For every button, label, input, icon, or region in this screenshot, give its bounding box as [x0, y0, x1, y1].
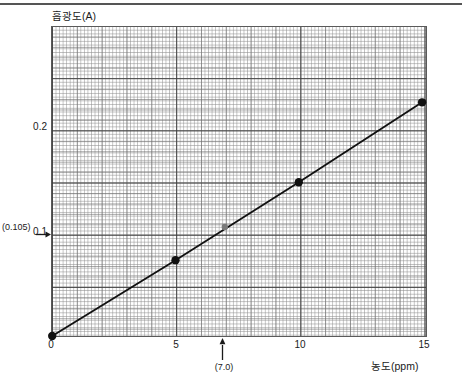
x-axis-title: 농도(ppm) [371, 358, 418, 373]
data-point-marker [295, 178, 303, 186]
data-line-and-markers [52, 27, 426, 336]
arrow-up-icon [218, 338, 227, 360]
interpolated-concentration-label: (7.0) [206, 362, 242, 372]
x-tick-label-0: 0 [36, 339, 66, 350]
y-tick-label-0.2: 0.2 [14, 121, 47, 132]
x-tick-label-5: 5 [161, 339, 191, 350]
data-point-marker [418, 98, 426, 106]
x-tick-label-15: 15 [409, 339, 439, 350]
series-line [52, 102, 422, 336]
data-point-marker [171, 256, 179, 264]
plot-area [51, 26, 427, 337]
interpolated-absorbance-label: (0.105) [2, 222, 31, 232]
x-tick-label-10: 10 [285, 339, 315, 350]
y-axis-title: 흡광도(A) [52, 8, 96, 23]
calibration-chart-figure: 흡광도(A) 농도(ppm) 0.1 0.2 0 5 10 15 (0.105)… [0, 0, 462, 380]
interpolated-point-marker [222, 224, 228, 230]
top-horizontal-rule [0, 3, 462, 5]
arrow-right-icon [36, 230, 51, 239]
